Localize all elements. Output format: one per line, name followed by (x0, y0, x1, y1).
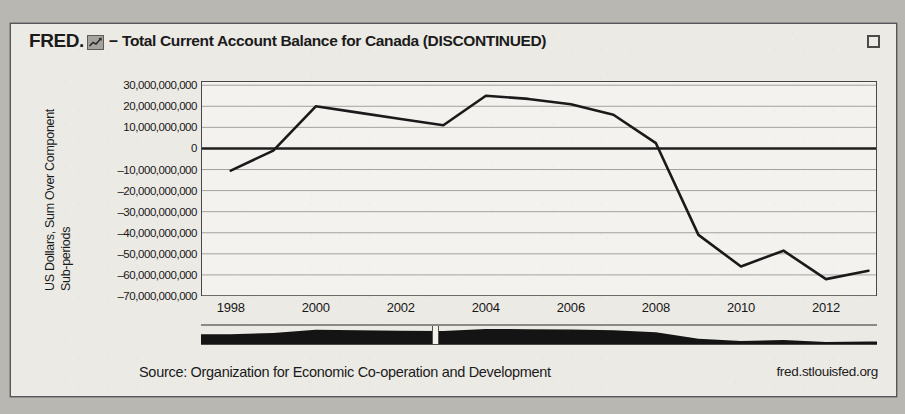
navigator-scrubber-handle[interactable] (432, 326, 439, 344)
y-tick-label: –60,000,000,000 (117, 269, 197, 281)
y-axis-tick-labels: 30,000,000,00020,000,000,00010,000,000,0… (99, 78, 197, 298)
chart-plot-area (201, 81, 877, 296)
y-tick-label: –10,000,000,000 (117, 164, 197, 176)
y-tick-label: –20,000,000,000 (117, 185, 197, 197)
y-tick-label: –50,000,000,000 (117, 248, 197, 260)
x-tick-label: 2006 (557, 300, 585, 315)
x-tick-label: 2012 (812, 300, 840, 315)
chart-canvas (201, 81, 877, 296)
chart-footer: Source: Organization for Economic Co-ope… (11, 354, 896, 394)
y-tick-label: 30,000,000,000 (123, 79, 197, 91)
range-navigator[interactable] (201, 324, 877, 346)
y-tick-label: 20,000,000,000 (123, 100, 197, 112)
y-tick-label: 0 (191, 142, 197, 154)
fred-url-label[interactable]: fred.stlouisfed.org (776, 364, 878, 379)
range-navigator-canvas[interactable] (201, 324, 877, 346)
y-axis-title-line1: US Dollars, Sum Over Component (43, 109, 58, 291)
chart-header: FRED. – Total Current Account Balance fo… (11, 24, 896, 56)
fred-brand-label: FRED. (29, 30, 84, 52)
source-label: Source: Organization for Economic Co-ope… (139, 364, 551, 380)
x-tick-label: 2000 (302, 300, 330, 315)
x-tick-label: 2008 (642, 300, 670, 315)
title-dash: – (109, 32, 118, 50)
x-tick-label: 2010 (727, 300, 755, 315)
x-axis-tick-labels: 19982000200220042006200820102012 (201, 300, 877, 320)
y-tick-label: –40,000,000,000 (117, 227, 197, 239)
x-tick-label: 1998 (217, 300, 245, 315)
navigator-area-fill (201, 329, 877, 345)
y-axis-title-line2: Sub-periods (59, 227, 74, 291)
x-tick-label: 2004 (472, 300, 500, 315)
y-tick-label: –70,000,000,000 (117, 290, 197, 302)
y-axis-title: US Dollars, Sum Over Component Sub-perio… (29, 79, 69, 294)
expand-fullscreen-icon[interactable] (867, 35, 880, 48)
y-tick-label: 10,000,000,000 (123, 121, 197, 133)
y-tick-label: –30,000,000,000 (117, 206, 197, 218)
screenshot-root: FRED. – Total Current Account Balance fo… (0, 0, 905, 414)
x-tick-label: 2002 (387, 300, 415, 315)
fred-mini-chart-icon (87, 35, 104, 50)
plot-frame (202, 82, 877, 296)
page-title: Total Current Account Balance for Canada… (122, 32, 546, 50)
fred-chart-card: FRED. – Total Current Account Balance fo… (10, 23, 897, 397)
chart-title-group: FRED. – Total Current Account Balance fo… (29, 30, 546, 52)
